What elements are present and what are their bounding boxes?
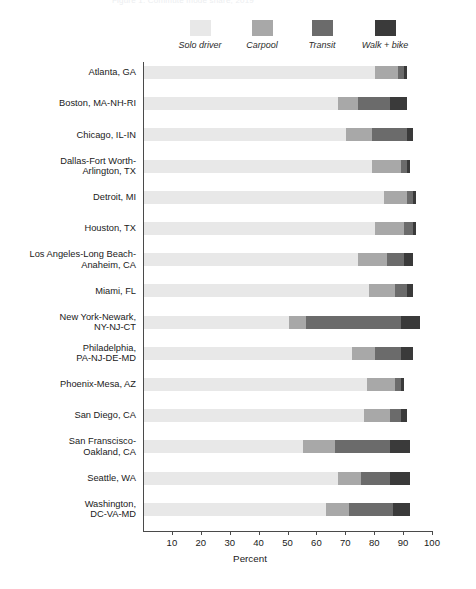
bar-segment-walk-bike[interactable] bbox=[407, 284, 413, 297]
bar-segment-solo-driver[interactable] bbox=[144, 160, 372, 173]
chart-row: Dallas-Fort Worth- Arlington, TX bbox=[0, 160, 476, 191]
bar-segment-transit[interactable] bbox=[390, 409, 402, 422]
stacked-bar[interactable] bbox=[144, 128, 413, 141]
bar-segment-carpool[interactable] bbox=[289, 316, 306, 329]
stacked-bar[interactable] bbox=[144, 284, 413, 297]
x-tick bbox=[230, 531, 231, 535]
stacked-bar[interactable] bbox=[144, 66, 407, 79]
bar-segment-walk-bike[interactable] bbox=[407, 128, 413, 141]
bar-segment-carpool[interactable] bbox=[338, 472, 361, 485]
bar-segment-solo-driver[interactable] bbox=[144, 66, 375, 79]
bar-segment-carpool[interactable] bbox=[346, 128, 372, 141]
chart-row: Washington, DC-VA-MD bbox=[0, 503, 476, 534]
bar-segment-walk-bike[interactable] bbox=[401, 378, 404, 391]
bar-segment-transit[interactable] bbox=[387, 253, 404, 266]
chart-row: Philadelphia, PA-NJ-DE-MD bbox=[0, 347, 476, 378]
bar-segment-carpool[interactable] bbox=[338, 97, 358, 110]
bar-segment-solo-driver[interactable] bbox=[144, 472, 338, 485]
bar-segment-carpool[interactable] bbox=[372, 160, 401, 173]
row-label-detroit: Detroit, MI bbox=[0, 192, 136, 203]
bar-segment-walk-bike[interactable] bbox=[390, 97, 407, 110]
bar-segment-transit[interactable] bbox=[335, 440, 390, 453]
stacked-bar[interactable] bbox=[144, 160, 410, 173]
bar-segment-walk-bike[interactable] bbox=[390, 472, 410, 485]
x-tick-label: 20 bbox=[186, 537, 216, 548]
stacked-bar[interactable] bbox=[144, 222, 416, 235]
stacked-bar[interactable] bbox=[144, 253, 413, 266]
x-tick bbox=[288, 531, 289, 535]
stacked-bar[interactable] bbox=[144, 347, 413, 360]
x-tick-label: 100 bbox=[417, 537, 447, 548]
row-label-san-franscisco-oakland: San Franscisco- Oakland, CA bbox=[0, 436, 136, 457]
row-label-miami: Miami, FL bbox=[0, 286, 136, 297]
x-axis-label: Percent bbox=[0, 553, 476, 564]
bar-segment-walk-bike[interactable] bbox=[390, 440, 410, 453]
bar-segment-solo-driver[interactable] bbox=[144, 503, 326, 516]
stacked-bar[interactable] bbox=[144, 191, 416, 204]
x-tick-label: 30 bbox=[215, 537, 245, 548]
row-label-houston: Houston, TX bbox=[0, 223, 136, 234]
bar-segment-solo-driver[interactable] bbox=[144, 347, 352, 360]
bar-segment-carpool[interactable] bbox=[367, 378, 396, 391]
bar-segment-solo-driver[interactable] bbox=[144, 316, 289, 329]
bar-segment-walk-bike[interactable] bbox=[407, 160, 410, 173]
bar-segment-carpool[interactable] bbox=[369, 284, 395, 297]
row-label-phoenix-mesa: Phoenix-Mesa, AZ bbox=[0, 379, 136, 390]
bar-segment-solo-driver[interactable] bbox=[144, 128, 346, 141]
chart-row: San Franscisco- Oakland, CA bbox=[0, 440, 476, 471]
chart-plot-area: Atlanta, GABoston, MA-NH-RIChicago, IL-I… bbox=[0, 0, 476, 589]
stacked-bar[interactable] bbox=[144, 97, 407, 110]
bar-segment-carpool[interactable] bbox=[326, 503, 349, 516]
x-tick-label: 70 bbox=[330, 537, 360, 548]
bar-segment-carpool[interactable] bbox=[352, 347, 375, 360]
bar-segment-carpool[interactable] bbox=[384, 191, 407, 204]
bar-segment-walk-bike[interactable] bbox=[401, 409, 407, 422]
row-label-new-york-newark: New York-Newark, NY-NJ-CT bbox=[0, 312, 136, 333]
bar-segment-transit[interactable] bbox=[404, 222, 413, 235]
bar-segment-walk-bike[interactable] bbox=[404, 66, 407, 79]
bar-segment-walk-bike[interactable] bbox=[393, 503, 410, 516]
chart-row: Boston, MA-NH-RI bbox=[0, 97, 476, 128]
bar-segment-transit[interactable] bbox=[358, 97, 390, 110]
x-tick-label: 60 bbox=[301, 537, 331, 548]
bar-segment-carpool[interactable] bbox=[358, 253, 387, 266]
stacked-bar[interactable] bbox=[144, 472, 410, 485]
bar-segment-solo-driver[interactable] bbox=[144, 440, 303, 453]
bar-segment-walk-bike[interactable] bbox=[404, 253, 413, 266]
bar-segment-solo-driver[interactable] bbox=[144, 378, 367, 391]
bar-segment-walk-bike[interactable] bbox=[413, 222, 416, 235]
bar-segment-walk-bike[interactable] bbox=[401, 347, 413, 360]
bar-segment-solo-driver[interactable] bbox=[144, 253, 358, 266]
bar-segment-carpool[interactable] bbox=[303, 440, 335, 453]
bar-segment-transit[interactable] bbox=[395, 284, 407, 297]
x-tick bbox=[432, 531, 433, 535]
chart-row: Phoenix-Mesa, AZ bbox=[0, 378, 476, 409]
x-tick bbox=[403, 531, 404, 535]
bar-segment-walk-bike[interactable] bbox=[401, 316, 420, 329]
bar-segment-transit[interactable] bbox=[349, 503, 392, 516]
bar-segment-solo-driver[interactable] bbox=[144, 284, 369, 297]
bar-segment-solo-driver[interactable] bbox=[144, 409, 364, 422]
bar-segment-solo-driver[interactable] bbox=[144, 97, 338, 110]
row-label-atlanta: Atlanta, GA bbox=[0, 67, 136, 78]
x-tick-label: 10 bbox=[157, 537, 187, 548]
stacked-bar[interactable] bbox=[144, 409, 407, 422]
x-tick-label: 80 bbox=[359, 537, 389, 548]
chart-row: Detroit, MI bbox=[0, 191, 476, 222]
bar-segment-solo-driver[interactable] bbox=[144, 191, 384, 204]
bar-segment-transit[interactable] bbox=[375, 347, 401, 360]
bar-segment-transit[interactable] bbox=[361, 472, 390, 485]
bar-segment-walk-bike[interactable] bbox=[413, 191, 416, 204]
stacked-bar[interactable] bbox=[144, 378, 404, 391]
stacked-bar[interactable] bbox=[144, 316, 420, 329]
bar-segment-transit[interactable] bbox=[372, 128, 407, 141]
stacked-bar[interactable] bbox=[144, 503, 410, 516]
stacked-bar[interactable] bbox=[144, 440, 410, 453]
bar-segment-carpool[interactable] bbox=[375, 66, 398, 79]
bar-segment-carpool[interactable] bbox=[375, 222, 404, 235]
row-label-san-diego: San Diego, CA bbox=[0, 410, 136, 421]
bar-segment-transit[interactable] bbox=[306, 316, 401, 329]
row-label-boston: Boston, MA-NH-RI bbox=[0, 98, 136, 109]
bar-segment-solo-driver[interactable] bbox=[144, 222, 375, 235]
bar-segment-carpool[interactable] bbox=[364, 409, 390, 422]
